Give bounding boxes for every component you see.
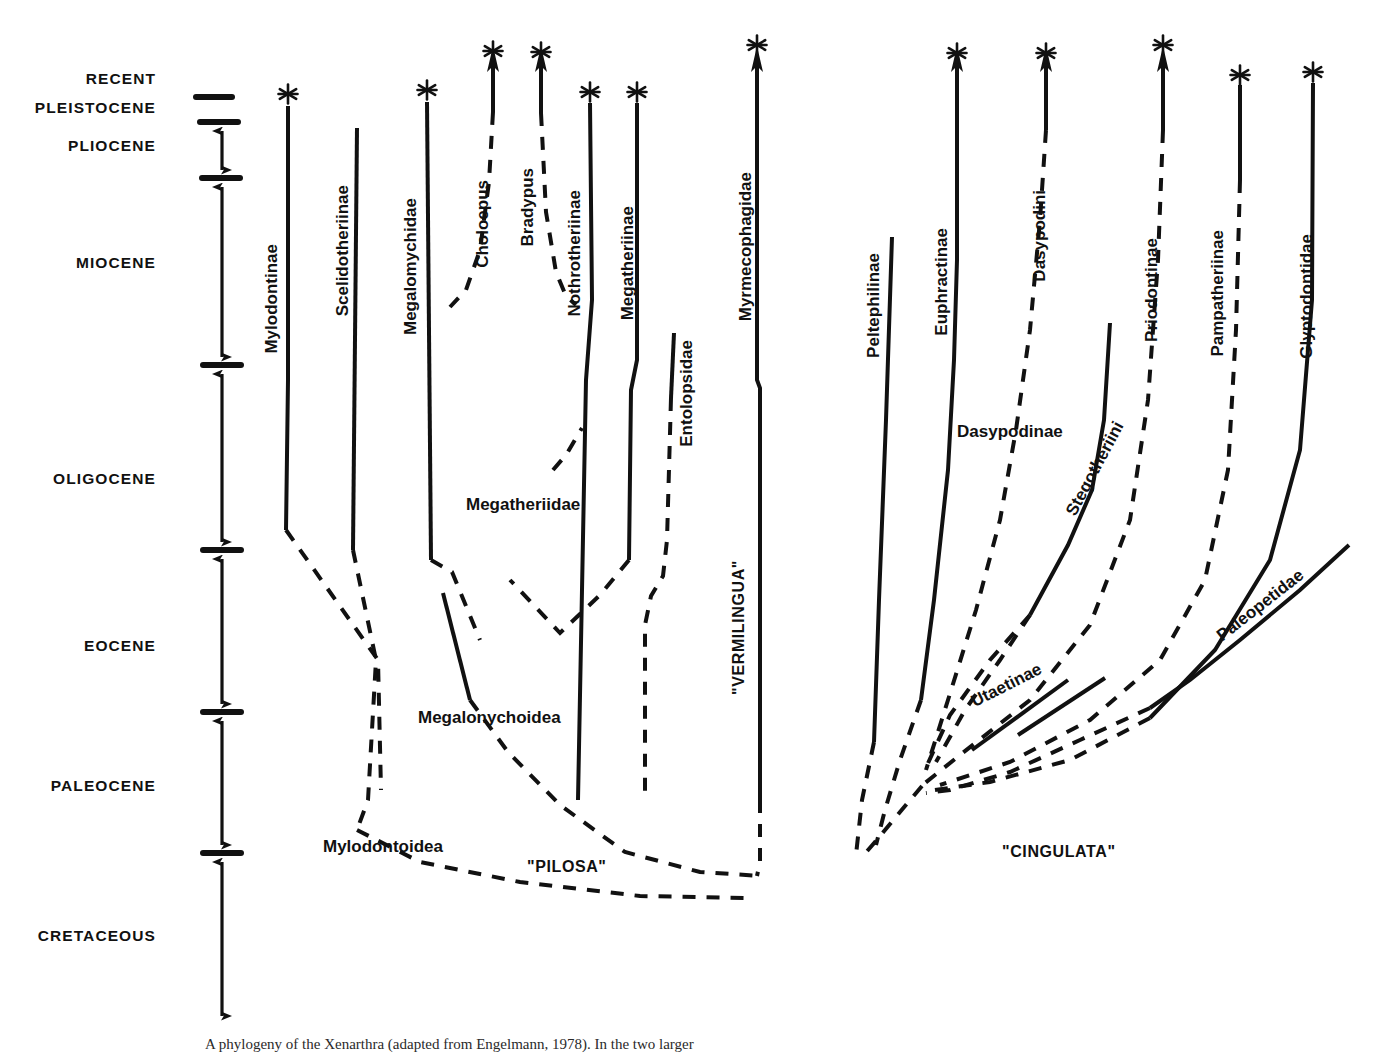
taxon-label-pampatheriinae: Pampatheriinae	[1208, 230, 1228, 357]
taxon-label-nothrotheriinae: Nothrotheriinae	[565, 190, 585, 317]
lineage-glyptodontidae-dashed	[935, 718, 1150, 790]
taxon-label-scelidotheriinae: Scelidotheriinae	[333, 185, 353, 316]
taxon-label-megatheriidae: Megatheriidae	[466, 495, 580, 515]
taxon-label-dasypodini: Dasypodini	[1030, 190, 1050, 282]
taxon-label-bradypus: Bradypus	[518, 168, 538, 246]
taxon-label-megalomychidae: Megalomychidae	[401, 198, 421, 335]
taxon-label-megalonychoidea: Megalonychoidea	[418, 708, 561, 728]
lineage-megalomychidae-dashed	[431, 560, 480, 640]
lineage-megalonychoidea	[443, 593, 470, 700]
figure-caption: A phylogeny of the Xenarthra (adapted fr…	[205, 1036, 1305, 1056]
epoch-label-oligocene: OLIGOCENE	[53, 470, 156, 488]
asterisk-myrmecophagidae	[748, 36, 767, 55]
lineage-megalomychidae	[427, 102, 431, 560]
lineage-megatheriinae-dashed	[510, 560, 629, 633]
asterisk-euphractinae	[948, 44, 967, 63]
epoch-tick	[196, 97, 241, 853]
living-arrowhead	[487, 46, 1169, 72]
asterisk-bradypus	[532, 43, 551, 62]
taxon-label-peltephilinae: Peltephilinae	[864, 253, 884, 358]
taxon-label-euphractinae: Euphractinae	[932, 228, 952, 336]
epoch-label-pliocene: PLIOCENE	[68, 137, 156, 155]
taxon-label-choloepus: Choloepus	[473, 180, 493, 268]
asterisk-dasypodini	[1037, 44, 1056, 63]
epoch-label-pleistocene: PLEISTOCENE	[35, 99, 156, 117]
terminus-asterisks	[279, 36, 1323, 104]
lineage-euphractinae-dashed	[876, 700, 921, 845]
asterisk-glyptodontidae	[1304, 63, 1323, 82]
lineage-scelidotheriinae-dashed	[353, 550, 376, 830]
group-label-vermilingua: "VERMILINGUA"	[730, 560, 748, 695]
epoch-label-paleocene: PALEOCENE	[51, 777, 156, 795]
group-label-cingulata: "CINGULATA"	[1002, 843, 1116, 861]
lineage-entolopsidae	[671, 333, 674, 398]
epoch-label-miocene: MIOCENE	[76, 254, 156, 272]
taxon-label-mylodontoidea: Mylodontoidea	[323, 837, 443, 857]
asterisk-pampatheriinae	[1231, 66, 1250, 85]
epoch-label-eocene: EOCENE	[84, 637, 156, 655]
asterisk-mylodontinae	[279, 85, 298, 104]
lineage-vermilingua-dashed	[757, 800, 760, 876]
lineage-mylodontinae	[286, 106, 288, 530]
taxon-label-priodontinae: Priodontinae	[1142, 238, 1162, 342]
lineage-megatheriinae	[629, 103, 637, 560]
phylogeny-lineage-lines	[0, 0, 1384, 1058]
phylogeny-figure: RECENT PLEISTOCENE PLIOCENE MIOCENE OLIG…	[0, 0, 1384, 1058]
asterisk-priodontinae	[1154, 36, 1173, 55]
lineage-mylodontinae-dashed	[286, 530, 381, 790]
lineage-megatheriidae-upper	[553, 428, 582, 470]
asterisk-megalomychidae	[418, 81, 437, 100]
taxon-label-glyptodontidae: Glyptodontidae	[1297, 234, 1317, 359]
timescale-axis	[196, 97, 241, 1016]
lineage-cingulata-root	[862, 786, 922, 857]
asterisk-choloepus	[484, 42, 503, 61]
taxon-label-dasypodinae: Dasypodinae	[957, 422, 1063, 442]
lineage-peltephilinae-dashed	[856, 742, 874, 855]
asterisk-megatheriinae	[628, 83, 647, 102]
asterisk-nothrotheriinae	[581, 83, 600, 102]
group-label-pilosa: "PILOSA"	[527, 858, 607, 876]
taxon-label-mylodontinae: Mylodontinae	[262, 244, 282, 354]
lineage-scelidotheriinae	[353, 128, 357, 550]
taxon-label-entolopsidae: Entolopsidae	[677, 340, 697, 447]
lineage-euphractinae	[921, 60, 957, 700]
epoch-label-cretaceous: CRETACEOUS	[38, 927, 156, 945]
lineage-entolopsidae-dashed	[645, 398, 671, 800]
lineage-myrmecophagidae-solid	[757, 60, 760, 800]
taxon-label-megatheriinae: Megatheriinae	[618, 206, 638, 320]
epoch-label-recent: RECENT	[86, 70, 156, 88]
taxon-label-myrmecophagidae: Myrmecophagidae	[736, 172, 756, 321]
